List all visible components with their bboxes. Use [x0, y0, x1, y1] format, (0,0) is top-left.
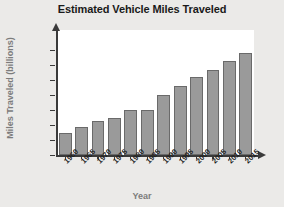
y-axis-tick-mark [50, 80, 55, 81]
x-axis-label: Year [0, 191, 284, 201]
y-axis-tick-mark [50, 95, 55, 96]
bar-series [57, 30, 254, 155]
bar [190, 77, 203, 155]
bar [124, 110, 137, 155]
y-axis-tick-mark [50, 110, 55, 111]
y-axis-tick-mark [50, 155, 55, 156]
y-axis-tick-mark [50, 140, 55, 141]
bar [223, 61, 236, 156]
chart-title: Estimated Vehicle Miles Traveled [0, 3, 284, 15]
bar [157, 95, 170, 155]
y-axis-tick-mark [50, 125, 55, 126]
chart-figure: Estimated Vehicle Miles Traveled 05001,0… [0, 0, 284, 207]
y-axis-label: Miles Traveled (billions) [5, 29, 15, 147]
bar [174, 86, 187, 155]
y-axis-tick-mark [50, 65, 55, 66]
bar [141, 110, 154, 155]
bar [239, 53, 252, 155]
y-axis-tick-mark [50, 50, 55, 51]
bar [207, 70, 220, 156]
